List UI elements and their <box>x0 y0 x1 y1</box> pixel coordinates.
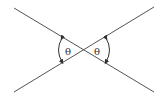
vertical-angles-diagram: θ θ <box>0 0 160 99</box>
right-angle-label: θ <box>94 46 100 57</box>
left-angle-arc-icon <box>59 38 63 62</box>
right-angle-arc-icon <box>106 38 110 62</box>
left-angle-label: θ <box>65 46 71 57</box>
